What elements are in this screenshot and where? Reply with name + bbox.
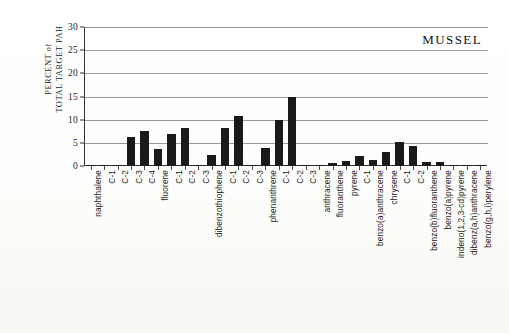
x-axis-tick-label-text: C-1 xyxy=(363,170,372,184)
x-axis-tick-label: benzo(g,h,i)perylene xyxy=(484,170,493,248)
bar-series xyxy=(84,27,487,166)
x-axis-tick-label-text: fluorene xyxy=(161,170,170,201)
x-axis-tick-label: C-1 xyxy=(108,170,117,184)
x-axis-tick-label: C-3 xyxy=(256,170,265,184)
x-axis-tick-label-text: C-2 xyxy=(417,170,426,184)
x-axis-tick-label-text: C-1 xyxy=(229,170,238,184)
bar xyxy=(261,148,269,166)
bar xyxy=(275,120,283,166)
x-axis-tick-label: C-2 xyxy=(188,170,197,184)
x-axis-tick-label-text: benzo(a)anthracene xyxy=(376,170,385,246)
x-axis-tick-label: C-1 xyxy=(282,170,291,184)
bar xyxy=(167,134,175,166)
bar xyxy=(409,146,417,166)
x-axis-tick-label: C-3 xyxy=(135,170,144,184)
x-axis-tick-label: fluorene xyxy=(161,170,170,201)
x-axis-tick-label-text: C-1 xyxy=(403,170,412,184)
x-axis-tick-label-text: C-3 xyxy=(202,170,211,184)
bar xyxy=(207,155,215,166)
x-axis-tick-label: C-2 xyxy=(417,170,426,184)
x-axis-tick-label-text: C-1 xyxy=(282,170,291,184)
x-axis-tick-label-text: C-2 xyxy=(242,170,251,184)
x-axis-tick-label: chrysene xyxy=(390,170,399,204)
y-axis-tick-label: 10 xyxy=(48,115,78,125)
y-axis-tick-labels: 051015202530 xyxy=(46,27,78,166)
x-axis-tick-label-text: fluoranthene xyxy=(336,170,345,217)
x-axis-tick-label: dibenz(a,h)anthracene xyxy=(470,170,479,255)
y-axis-tick-label: 20 xyxy=(48,68,78,78)
bar xyxy=(221,128,229,166)
x-axis-tick-label-text: C-2 xyxy=(296,170,305,184)
bar xyxy=(382,152,390,166)
x-axis-tick-label: indeno(1,2,3-cd)pyrene xyxy=(457,170,466,258)
bar xyxy=(288,97,296,167)
x-axis-tick-label: C-1 xyxy=(403,170,412,184)
bar xyxy=(181,128,189,166)
x-axis-tick-label: benzo(a)anthracene xyxy=(376,170,385,246)
x-axis-tick-label-text: anthracene xyxy=(323,170,332,212)
bar xyxy=(154,149,162,166)
x-axis-tick-label-text: phenanthrene xyxy=(269,170,278,222)
y-axis-tick-label: 5 xyxy=(48,138,78,148)
bar xyxy=(395,142,403,166)
x-axis-tick-label: C-1 xyxy=(175,170,184,184)
bar xyxy=(140,131,148,166)
x-axis-tick-label-text: C-3 xyxy=(309,170,318,184)
y-axis-tick-label: 30 xyxy=(48,22,78,32)
y-axis-tick-label: 0 xyxy=(48,161,78,171)
x-axis-tick-label-text: naphthalene xyxy=(94,170,103,217)
x-axis-tick-label-text: dibenz(a,h)anthracene xyxy=(470,170,479,255)
x-axis-tick-label: fluoranthene xyxy=(336,170,345,217)
x-axis-tick-label: anthracene xyxy=(323,170,332,212)
x-axis-tick-label: C-2 xyxy=(242,170,251,184)
x-axis-tick-label: pyrene xyxy=(350,170,359,196)
bar xyxy=(355,156,363,166)
x-axis-tick-label-text: C-1 xyxy=(175,170,184,184)
x-axis-tick-label: benzo(a)pyrene xyxy=(444,170,453,229)
y-axis-tick-label: 15 xyxy=(48,92,78,102)
x-axis-tick-labels: naphthaleneC-1C-2C-3C-4fluoreneC-1C-2C-3… xyxy=(84,170,487,330)
x-axis-tick-label-text: benzo(a)pyrene xyxy=(444,170,453,229)
x-axis-tick-label-text: C-3 xyxy=(256,170,265,184)
x-axis-tick-label: C-1 xyxy=(363,170,372,184)
x-axis-tick-label: C-2 xyxy=(121,170,130,184)
bar xyxy=(127,137,135,166)
x-axis-tick-label: C-3 xyxy=(309,170,318,184)
x-axis-tick-label-text: indeno(1,2,3-cd)pyrene xyxy=(457,170,466,258)
x-axis-tick-label-text: pyrene xyxy=(350,170,359,196)
x-axis-tick-label: phenanthrene xyxy=(269,170,278,222)
x-axis-tick-label-text: C-2 xyxy=(188,170,197,184)
x-axis-tick-label: C-4 xyxy=(148,170,157,184)
x-axis-tick-label: naphthalene xyxy=(94,170,103,217)
x-axis-tick-label: C-3 xyxy=(202,170,211,184)
x-axis-tick-label-text: C-3 xyxy=(135,170,144,184)
x-axis-tick-label: dibenzothiophene xyxy=(215,170,224,237)
x-axis-tick-label: benzo(b)fluoranthene xyxy=(430,170,439,251)
x-axis-tick-label-text: C-2 xyxy=(121,170,130,184)
pah-distribution-chart: MUSSEL PERCENT of TOTAL TARGET PAH 05101… xyxy=(0,0,509,333)
x-axis-tick-label-text: C-4 xyxy=(148,170,157,184)
x-axis-tick-label-text: C-1 xyxy=(108,170,117,184)
x-axis-tick-label-text: chrysene xyxy=(390,170,399,204)
x-axis-tick-label-text: benzo(b)fluoranthene xyxy=(430,170,439,251)
y-axis-tick-label: 25 xyxy=(48,45,78,55)
x-axis-tick-label: C-1 xyxy=(229,170,238,184)
bar xyxy=(234,116,242,166)
x-axis-tick-label-text: dibenzothiophene xyxy=(215,170,224,237)
x-axis-tick-label: C-2 xyxy=(296,170,305,184)
x-axis-tick-label-text: benzo(g,h,i)perylene xyxy=(484,170,493,248)
